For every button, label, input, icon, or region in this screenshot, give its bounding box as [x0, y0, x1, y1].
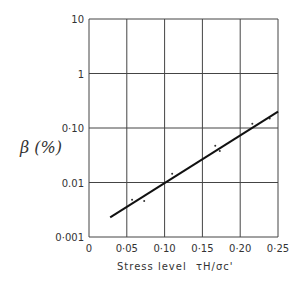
- y-axis-label: β (%): [19, 138, 62, 157]
- y-tick-labels: 1010·100.010·001: [55, 14, 84, 243]
- x-tick-label: 0·15: [191, 243, 213, 254]
- y-tick-label: 0·10: [62, 123, 84, 134]
- x-tick-label: 0·10: [153, 243, 175, 254]
- data-point: [214, 145, 216, 147]
- y-tick-label: 0·001: [55, 232, 84, 243]
- data-series: [110, 112, 278, 218]
- grid: [89, 19, 278, 237]
- y-tick-label: 10: [71, 14, 84, 25]
- y-tick-label: 0.01: [62, 178, 84, 189]
- data-point: [251, 123, 253, 125]
- x-tick-labels: 00·050·100·150·200·25: [86, 243, 289, 254]
- chart: 1010·100.010·001 00·050·100·150·200·25 β…: [0, 0, 305, 287]
- x-tick-label: 0·20: [229, 243, 251, 254]
- x-tick-label: 0: [86, 243, 92, 254]
- fit-line: [110, 112, 278, 218]
- x-axis-label-text: Stress level: [117, 261, 187, 272]
- x-tick-label: 0·05: [116, 243, 138, 254]
- data-point: [131, 199, 133, 201]
- x-axis-label-symbol: τH/σc': [196, 261, 234, 272]
- data-point: [219, 150, 221, 152]
- x-tick-label: 0·25: [267, 243, 289, 254]
- y-tick-label: 1: [78, 69, 84, 80]
- data-point: [143, 200, 145, 202]
- data-point: [171, 173, 173, 175]
